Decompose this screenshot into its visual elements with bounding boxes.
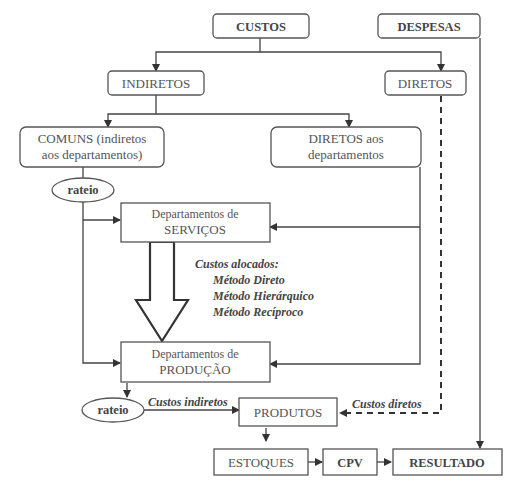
node-despesas-label: DESPESAS bbox=[397, 20, 460, 34]
connector-rateio-left-bus bbox=[83, 201, 120, 363]
metodo-direto-label: Método Direto bbox=[212, 273, 285, 287]
connector-custos-split bbox=[156, 38, 441, 71]
node-diretos-label: DIRETOS bbox=[398, 76, 453, 91]
allocation-methods-note: Custos alocados: Método Direto Método Hi… bbox=[195, 257, 314, 319]
node-diretos-departamentos: DIRETOS aos departamentos bbox=[271, 127, 421, 167]
node-rateio-bottom-label: rateio bbox=[97, 403, 128, 417]
node-indiretos-label: INDIRETOS bbox=[122, 76, 190, 91]
node-resultado: RESULTADO bbox=[393, 449, 502, 475]
connector-diretos-dep-bus bbox=[270, 167, 420, 364]
custos-diretos-label: Custos diretos bbox=[352, 397, 422, 411]
node-diretos: DIRETOS bbox=[385, 71, 466, 95]
arrowhead-custos-diretos bbox=[339, 409, 347, 417]
node-resultado-label: RESULTADO bbox=[409, 456, 485, 470]
cost-flow-diagram: CUSTOS DESPESAS INDIRETOS DIRETOS COMUNS… bbox=[0, 0, 517, 486]
node-servicos-label-2: SERVIÇOS bbox=[164, 222, 226, 237]
node-comuns-label-1: COMUNS (indiretos bbox=[38, 131, 147, 146]
node-departamentos-servicos: Departamentos de SERVIÇOS bbox=[121, 203, 270, 242]
node-producao-label-1: Departamentos de bbox=[152, 347, 239, 361]
node-estoques: ESTOQUES bbox=[214, 449, 308, 475]
node-rateio-bottom: rateio bbox=[82, 398, 144, 422]
node-custos-label: CUSTOS bbox=[236, 20, 286, 34]
node-estoques-label: ESTOQUES bbox=[228, 455, 294, 470]
metodo-reciproco-label: Método Recíproco bbox=[212, 305, 303, 319]
node-diretos-departamentos-label-1: DIRETOS aos bbox=[308, 131, 383, 146]
node-despesas: DESPESAS bbox=[378, 14, 480, 38]
node-produtos-label: PRODUTOS bbox=[254, 405, 322, 420]
allocation-big-arrow bbox=[136, 242, 188, 341]
node-comuns: COMUNS (indiretos aos departamentos) bbox=[20, 127, 164, 167]
node-diretos-departamentos-label-2: departamentos bbox=[308, 147, 384, 162]
node-servicos-label-1: Departamentos de bbox=[152, 207, 239, 221]
node-indiretos: INDIRETOS bbox=[108, 71, 204, 95]
node-producao-label-2: PRODUÇÃO bbox=[159, 362, 231, 377]
metodo-hierarquico-label: Método Hierárquico bbox=[212, 289, 314, 303]
node-produtos: PRODUTOS bbox=[239, 398, 337, 426]
node-cpv-label: CPV bbox=[337, 456, 363, 470]
node-cpv: CPV bbox=[323, 449, 377, 475]
node-custos: CUSTOS bbox=[213, 14, 309, 38]
custos-alocados-label: Custos alocados: bbox=[195, 257, 279, 271]
connector-indiretos-split bbox=[108, 95, 349, 127]
custos-indiretos-label: Custos indiretos bbox=[148, 395, 228, 409]
node-rateio-top: rateio bbox=[52, 178, 114, 202]
node-departamentos-producao: Departamentos de PRODUÇÃO bbox=[121, 342, 270, 382]
node-rateio-top-label: rateio bbox=[67, 183, 98, 197]
node-comuns-label-2: aos departamentos) bbox=[42, 147, 143, 162]
